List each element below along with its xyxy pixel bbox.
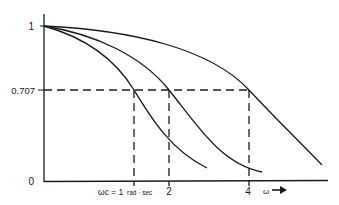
y-label-one: 1 xyxy=(28,21,34,32)
x-label-two: 2 xyxy=(166,186,172,197)
y-label-707: 0.707 xyxy=(11,85,35,96)
x-direction-arrow-icon xyxy=(272,186,287,194)
x-axis xyxy=(44,181,328,182)
x-label-four: 4 xyxy=(245,186,251,197)
curve-wc-1 xyxy=(44,26,207,168)
x-label-wc-unit: rad · sec xyxy=(127,189,153,196)
frequency-response-chart: 1 0.707 0 ωc = 1 rad · sec 2 4 ω xyxy=(0,0,339,205)
curve-wc-4 xyxy=(44,26,322,165)
curve-wc-2 xyxy=(44,26,262,172)
x-axis-symbol: ω xyxy=(263,187,269,196)
y-label-zero: 0 xyxy=(28,176,34,187)
x-label-wc: ωc = 1 xyxy=(98,187,124,197)
